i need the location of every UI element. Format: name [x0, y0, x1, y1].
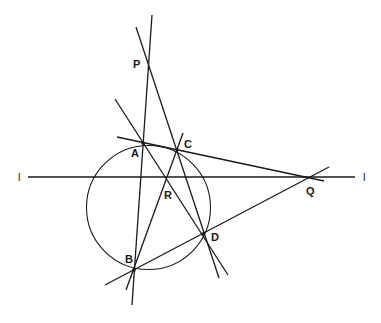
- circle: [87, 146, 211, 270]
- label-A: A: [131, 148, 139, 159]
- label-D: D: [211, 232, 219, 243]
- line-PCD: [136, 27, 219, 278]
- geometry-figure: [0, 0, 381, 323]
- point-D: [201, 232, 205, 236]
- label-C: C: [184, 139, 192, 150]
- label-Q: Q: [306, 186, 315, 197]
- label-line-l-left: l: [18, 172, 20, 183]
- label-R: R: [164, 190, 172, 201]
- line-BDQ: [105, 167, 329, 285]
- line-ARD: [115, 99, 228, 275]
- label-B: B: [125, 254, 133, 265]
- line-ACQ: [117, 137, 324, 181]
- point-B: [132, 268, 136, 272]
- point-A: [141, 141, 145, 145]
- label-P: P: [133, 59, 140, 70]
- diagram-canvas: P A C R Q D B l l: [0, 0, 381, 323]
- point-C: [175, 148, 179, 152]
- lines-group: [28, 15, 355, 305]
- label-line-l-right: l: [363, 172, 365, 183]
